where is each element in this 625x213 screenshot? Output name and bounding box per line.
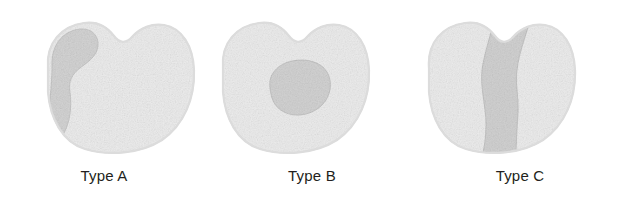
panel-type-b: Type B <box>208 0 416 213</box>
panel-type-c: Type C <box>416 0 624 213</box>
specimen-diagram-type-b <box>208 6 416 158</box>
specimen-diagram-type-c <box>416 6 624 158</box>
panel-label-type-b: Type B <box>208 166 416 185</box>
panel-label-type-a: Type A <box>0 166 208 185</box>
figure-panel-group: Type A <box>0 0 625 213</box>
panel-type-a: Type A <box>0 0 208 213</box>
specimen-diagram-type-a <box>0 6 208 158</box>
panel-label-type-c: Type C <box>416 166 624 185</box>
